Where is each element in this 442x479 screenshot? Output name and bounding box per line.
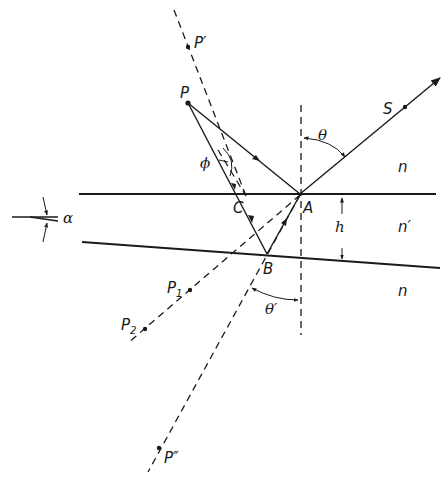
theta-prime-arc [252,288,298,300]
point-s [403,105,407,109]
bottom-surface [82,242,440,268]
label-h: h [335,218,345,236]
label-p-double-prime: P″ [164,449,179,467]
label-n-bottom: n [398,282,408,300]
label-c: C [233,199,244,217]
label-alpha: α [63,209,73,227]
alpha-arrow-bottom [43,223,47,242]
label-n-top: n [398,158,408,176]
point-p-prime [186,45,190,49]
label-theta-prime: θ′ [265,300,278,318]
label-b: B [263,260,273,278]
label-n-film: n′ [398,218,412,236]
label-a: A [302,199,313,217]
alpha-arrow-top [43,197,47,215]
label-p1: P1 [167,279,182,299]
dashed-construction [218,150,246,196]
label-theta: θ [318,126,327,144]
label-p: P [180,84,190,102]
point-p-double-prime [157,446,161,450]
label-p2: P2 [121,316,136,336]
dashed-line-p1-p2 [128,195,300,343]
label-p-prime: P′ [194,34,207,52]
ray-p-to-a [188,103,300,194]
point-p2 [143,327,147,331]
phi-leader [219,160,228,162]
point-p1 [188,288,192,292]
label-phi: ϕ [200,154,210,172]
label-s: S [383,100,393,118]
ray-p-to-b [188,103,267,254]
wedge-film-diagram: P′ P S θ ϕ C A B h n n′ n θ′ α P1 P2 P″ [0,0,442,479]
